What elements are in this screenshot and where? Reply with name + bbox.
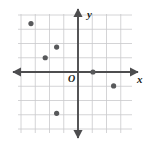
- data-point: [111, 83, 116, 88]
- data-point: [54, 44, 59, 49]
- data-points: [28, 21, 116, 116]
- axes: [13, 9, 138, 138]
- origin-label: O: [68, 74, 75, 84]
- y-axis-label: y: [87, 9, 92, 20]
- coordinate-plane-figure: y x O: [0, 0, 154, 152]
- data-point: [28, 21, 33, 26]
- data-point: [43, 55, 48, 60]
- x-axis-label: x: [137, 74, 143, 85]
- data-point: [54, 111, 59, 116]
- data-point: [90, 69, 95, 74]
- plot-canvas: [0, 0, 154, 152]
